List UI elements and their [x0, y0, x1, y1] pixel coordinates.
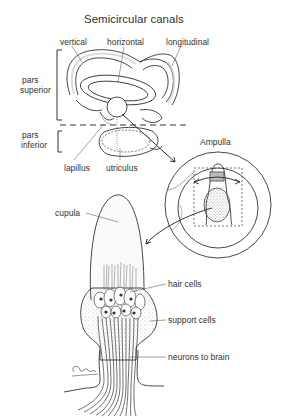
pars-superior-bracket	[57, 50, 62, 120]
label-pars-inferior-2: inferior	[21, 141, 47, 150]
label-horizontal: horizontal	[107, 38, 144, 47]
inner-ear-illustration	[0, 0, 281, 418]
label-lapillus: lapillus	[64, 164, 90, 173]
cupula-crista	[64, 195, 164, 416]
label-ampulla: Ampulla	[200, 138, 231, 147]
label-support-cells: support cells	[168, 316, 216, 325]
label-pars-superior-1: pars	[22, 76, 39, 85]
semicircular-canals	[67, 50, 179, 125]
label-longitudinal: longitudinal	[166, 38, 209, 47]
label-vertical: vertical	[60, 38, 87, 47]
diagram-title: Semicircular canals	[84, 13, 184, 25]
label-cupula: cupula	[55, 209, 80, 218]
label-neurons-to-brain: neurons to brain	[168, 353, 229, 362]
ampulla-inset	[165, 152, 271, 258]
artist-signature	[73, 366, 96, 372]
label-pars-superior-2: superior	[20, 86, 51, 95]
label-pars-inferior-1: pars	[22, 131, 39, 140]
pars-inferior-bracket	[58, 131, 62, 152]
label-hair-cells: hair cells	[168, 280, 202, 289]
label-utriculus: utriculus	[106, 164, 138, 173]
